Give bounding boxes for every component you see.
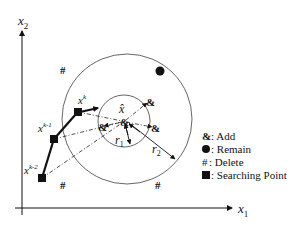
legend: & : Add : Remain # : Delete : Searching … <box>202 130 287 181</box>
legend-square-icon <box>202 171 210 179</box>
svg-text:: Add: : Add <box>211 130 236 142</box>
delete-marker-lower-left: # <box>60 179 66 191</box>
delete-marker-upper-left: # <box>60 64 66 76</box>
y-axis-label: x2 <box>17 13 28 31</box>
svg-text:#: # <box>202 156 208 168</box>
svg-text:: Remain: : Remain <box>211 143 252 155</box>
search-diagram: x2 x1 xk xk-1 xk-2 x̂ & & & & # # # r1 <box>0 0 296 226</box>
searching-point-xk2 <box>38 174 46 182</box>
legend-item-add: & : Add <box>202 130 236 142</box>
svg-text:: Searching Point: : Searching Point <box>211 169 287 181</box>
add-marker-right: & <box>151 122 160 134</box>
r2-arrow-back <box>129 124 140 132</box>
legend-item-delete: # : Delete <box>202 156 244 168</box>
svg-text:&: & <box>202 130 211 142</box>
searching-point-xk1 <box>50 135 58 143</box>
add-marker-upper-right: & <box>146 96 155 108</box>
remain-dot <box>156 67 165 76</box>
legend-dot-icon <box>202 145 210 153</box>
x-axis-label: x1 <box>237 201 248 219</box>
label-r2: r2 <box>152 142 161 158</box>
label-xk2: xk-2 <box>23 163 38 176</box>
label-xk: xk <box>77 93 87 106</box>
add-marker-left: & <box>98 121 107 133</box>
delete-marker-lower-right: # <box>155 179 161 191</box>
legend-item-searching-point: : Searching Point <box>202 169 287 181</box>
label-r1: r1 <box>115 133 124 149</box>
legend-item-remain: : Remain <box>202 143 252 155</box>
svg-text:: Delete: : Delete <box>209 156 244 168</box>
dash-dot-lines <box>42 103 152 178</box>
label-xk1: xk-1 <box>37 121 52 134</box>
add-marker-center: & <box>120 116 129 128</box>
searching-point-xk <box>74 108 82 116</box>
axes: x2 x1 <box>15 13 248 219</box>
label-xhat: x̂ <box>118 102 125 116</box>
